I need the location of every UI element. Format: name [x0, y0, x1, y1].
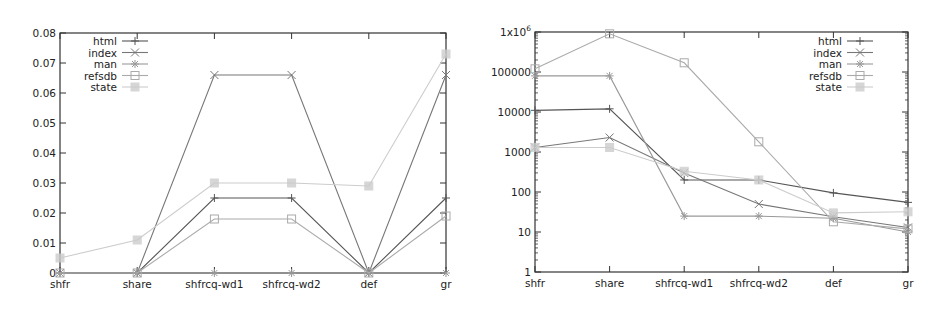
legend-label-index: index [88, 47, 117, 59]
legend: htmlindexmanrefsdbstate [84, 35, 148, 93]
x-tick-label: gr [441, 278, 453, 290]
legend-state-marker [131, 83, 139, 91]
series-index [56, 71, 450, 277]
state-marker [755, 176, 763, 184]
x-tick-label: shfr [50, 278, 71, 290]
legend-label-html: html [818, 35, 842, 47]
legend-state-marker [856, 83, 864, 91]
state-marker [288, 179, 296, 187]
y-tick-label: 0.08 [33, 27, 56, 39]
legend-label-man: man [819, 58, 842, 70]
series-refsdb [531, 30, 912, 233]
y-tick-label: 0.03 [33, 177, 56, 189]
x-tick-label: def [360, 278, 377, 290]
state-marker [904, 208, 912, 216]
legend-label-refsdb: refsdb [84, 70, 117, 82]
legend-label-index: index [813, 47, 842, 59]
man-marker [606, 72, 614, 80]
series-man [531, 72, 912, 236]
x-tick-label: share [595, 277, 624, 289]
man-marker [680, 212, 688, 220]
state-marker [133, 236, 141, 244]
html-marker [531, 106, 539, 114]
state-marker [531, 143, 539, 151]
legend: htmlindexmanrefsdbstate [809, 35, 873, 93]
y-tick-label: 10000 [498, 106, 531, 118]
y-tick-label: 100 [511, 186, 531, 198]
legend-label-state: state [815, 81, 842, 93]
legend-label-refsdb: refsdb [809, 70, 842, 82]
y-tick-label: 1000 [504, 146, 531, 158]
man-marker [755, 212, 763, 220]
plot-frame [535, 32, 908, 272]
html-marker [904, 198, 912, 206]
x-tick-label: shfrcq-wd2 [263, 278, 321, 290]
y-tick-label: 1x106 [500, 24, 531, 38]
x-tick-label: shfr [525, 277, 546, 289]
legend-html-marker [856, 37, 864, 45]
y-tick-label: 0.05 [33, 117, 56, 129]
legend-man-marker [856, 60, 864, 68]
legend-label-html: html [93, 35, 117, 47]
html-marker [829, 189, 837, 197]
man-marker [210, 269, 218, 277]
x-tick-label: shfrcq-wd2 [730, 277, 788, 289]
charts-canvas: 00.010.020.030.040.050.060.070.08shfrsha… [0, 0, 935, 309]
y-tick-label: 0.06 [33, 87, 57, 99]
series-html [56, 194, 450, 277]
state-marker [56, 254, 64, 262]
y-tick-label: 0.04 [33, 147, 57, 159]
state-marker [606, 143, 614, 151]
legend-html-marker [131, 37, 139, 45]
legend-label-man: man [94, 58, 117, 70]
x-tick-label: def [825, 277, 842, 289]
series-index [531, 134, 912, 232]
y-tick-label: 0.01 [33, 237, 56, 249]
log-chart: 1101001000100001000001x106shfrshareshfrc… [491, 24, 914, 289]
linear-chart: 00.010.020.030.040.050.060.070.08shfrsha… [33, 27, 453, 290]
series-refsdb [56, 212, 450, 277]
man-marker [288, 269, 296, 277]
legend-man-marker [131, 60, 139, 68]
state-marker [442, 50, 450, 58]
y-tick-label: 100000 [491, 66, 531, 78]
state-marker [210, 179, 218, 187]
state-marker [829, 209, 837, 217]
y-tick-label: 0.02 [33, 207, 56, 219]
state-marker [680, 167, 688, 175]
x-tick-label: shfrcq-wd1 [185, 278, 243, 290]
state-marker [365, 182, 373, 190]
legend-label-state: state [90, 81, 117, 93]
x-tick-label: shfrcq-wd1 [655, 277, 713, 289]
x-tick-label: share [123, 278, 152, 290]
y-tick-label: 0.07 [33, 57, 56, 69]
series-html [531, 105, 912, 207]
man-marker [904, 228, 912, 236]
man-marker [442, 269, 450, 277]
x-tick-label: gr [903, 277, 915, 289]
y-tick-label: 10 [518, 226, 531, 238]
